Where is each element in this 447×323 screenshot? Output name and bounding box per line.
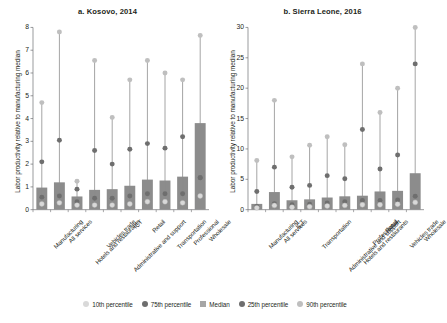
p90-marker xyxy=(395,86,400,91)
p10-marker xyxy=(395,202,400,207)
p90-marker xyxy=(360,61,365,66)
p75-marker xyxy=(57,138,62,143)
p90-marker xyxy=(127,77,132,82)
legend-square-icon xyxy=(200,301,206,307)
legend-item: 90th percentile xyxy=(297,301,347,308)
p10-marker xyxy=(92,203,97,208)
legend-item: 25th percentile xyxy=(239,301,289,308)
p75-marker xyxy=(75,187,80,192)
p90-marker xyxy=(198,33,203,38)
p25-marker xyxy=(145,191,150,196)
p10-marker xyxy=(342,203,347,208)
y-tick-label: 5 xyxy=(240,175,244,182)
legend-item: Median xyxy=(200,301,229,308)
y-tick-label: 6 xyxy=(25,69,29,76)
p10-marker xyxy=(198,194,203,199)
p25-marker xyxy=(92,196,97,201)
p90-marker xyxy=(57,30,62,35)
p75-marker xyxy=(180,134,185,139)
p25-marker xyxy=(39,195,44,200)
p90-marker xyxy=(342,142,347,147)
legend-item: 75th percentile xyxy=(142,301,192,308)
p75-marker xyxy=(342,176,347,181)
p25-marker xyxy=(198,175,203,180)
p10-marker xyxy=(378,202,383,207)
p25-marker xyxy=(180,191,185,196)
p90-marker xyxy=(413,25,418,30)
p75-marker xyxy=(395,153,400,158)
y-tick-label: 10 xyxy=(236,145,244,152)
y-tick-label: 15 xyxy=(236,115,244,122)
y-tick-label: 25 xyxy=(236,54,244,61)
p90-marker xyxy=(272,98,277,103)
p10-marker xyxy=(39,202,44,207)
p10-marker xyxy=(290,205,295,210)
y-tick-label: 3 xyxy=(25,137,29,144)
p10-marker xyxy=(254,205,259,210)
panel-b-plot: 051015202530 xyxy=(215,0,430,291)
p90-marker xyxy=(378,110,383,115)
p10-marker xyxy=(325,204,330,209)
p90-marker xyxy=(145,58,150,63)
p75-marker xyxy=(290,185,295,190)
legend-dot-icon xyxy=(297,301,303,307)
p10-marker xyxy=(110,203,115,208)
p75-marker xyxy=(378,167,383,172)
panel-a-plot: 012345678 xyxy=(0,0,215,291)
p10-marker xyxy=(307,204,312,209)
y-tick-label: 20 xyxy=(236,84,244,91)
p90-marker xyxy=(75,179,80,184)
y-tick-label: 5 xyxy=(25,92,29,99)
p10-marker xyxy=(272,203,277,208)
p75-marker xyxy=(163,146,168,151)
legend-dot-icon xyxy=(239,301,245,307)
legend-label: 90th percentile xyxy=(306,301,347,308)
p90-marker xyxy=(110,115,115,120)
y-tick-label: 1 xyxy=(25,183,29,190)
p10-marker xyxy=(57,200,62,205)
p90-marker xyxy=(254,158,259,163)
p75-marker xyxy=(254,189,259,194)
p75-marker xyxy=(360,127,365,132)
p75-marker xyxy=(272,165,277,170)
y-tick-label: 2 xyxy=(25,160,29,167)
p10-marker xyxy=(75,203,80,208)
p10-marker xyxy=(360,202,365,207)
legend-label: 75th percentile xyxy=(151,301,192,308)
p90-marker xyxy=(92,58,97,63)
legend-dot-icon xyxy=(83,301,89,307)
legend-label: 25th percentile xyxy=(248,301,289,308)
p90-marker xyxy=(325,134,330,139)
p10-marker xyxy=(163,199,168,204)
p10-marker xyxy=(413,200,418,205)
p25-marker xyxy=(127,194,132,199)
p75-marker xyxy=(307,183,312,188)
p90-marker xyxy=(307,143,312,148)
p10-marker xyxy=(180,200,185,205)
p75-marker xyxy=(39,159,44,164)
p90-marker xyxy=(290,154,295,159)
legend-item: 10th percentile xyxy=(83,301,133,308)
p25-marker xyxy=(163,191,168,196)
p75-marker xyxy=(110,162,115,167)
p75-marker xyxy=(92,148,97,153)
y-tick-label: 7 xyxy=(25,46,29,53)
panel-kosovo: a. Kosovo, 2014 Labor productivity relat… xyxy=(0,0,215,291)
y-tick-label: 8 xyxy=(25,24,29,31)
p75-marker xyxy=(145,141,150,146)
y-tick-label: 0 xyxy=(25,206,29,213)
y-tick-label: 30 xyxy=(236,24,244,31)
p90-marker xyxy=(180,77,185,82)
legend-dot-icon xyxy=(142,301,148,307)
p75-marker xyxy=(413,61,418,66)
p25-marker xyxy=(57,194,62,199)
y-tick-label: 0 xyxy=(240,206,244,213)
p75-marker xyxy=(325,173,330,178)
legend-label: 10th percentile xyxy=(92,301,133,308)
p10-marker xyxy=(145,199,150,204)
p10-marker xyxy=(127,202,132,207)
y-tick-label: 4 xyxy=(25,115,29,122)
p90-marker xyxy=(163,71,168,76)
panels-container: a. Kosovo, 2014 Labor productivity relat… xyxy=(0,0,430,291)
